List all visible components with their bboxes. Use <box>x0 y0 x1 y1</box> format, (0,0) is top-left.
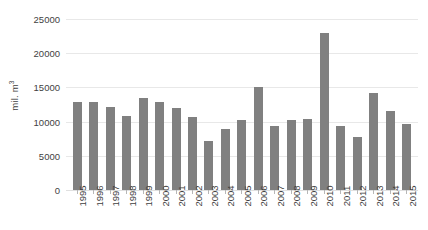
bar-slot <box>69 19 85 190</box>
bar-slot <box>300 19 316 190</box>
bar[interactable] <box>386 111 395 190</box>
bar[interactable] <box>106 107 115 190</box>
y-axis-title-superscript: 3 <box>7 80 14 84</box>
y-axis-tick-label: 25000 <box>34 14 60 25</box>
y-axis-tick-label: 0 <box>55 185 60 196</box>
x-axis-label-slot: 2008 <box>283 194 299 230</box>
bar[interactable] <box>89 102 98 190</box>
x-axis-label-slot: 2001 <box>168 194 184 230</box>
x-axis-label-slot: 1998 <box>118 194 134 230</box>
y-axis-tick-label: 15000 <box>34 82 60 93</box>
bar-slot <box>217 19 233 190</box>
bar[interactable] <box>353 137 362 190</box>
x-axis-label-slot: 1996 <box>85 194 101 230</box>
x-axis-label-slot: 2015 <box>398 194 414 230</box>
bar-slot <box>135 19 151 190</box>
x-axis-label-slot: 2007 <box>267 194 283 230</box>
y-axis-tick-label: 5000 <box>39 150 60 161</box>
bar[interactable] <box>139 98 148 190</box>
bar[interactable] <box>204 141 213 190</box>
bar[interactable] <box>188 117 197 190</box>
bar[interactable] <box>320 33 329 190</box>
bar[interactable] <box>402 124 411 190</box>
x-axis-label-slot: 1997 <box>102 194 118 230</box>
x-axis-label-slot: 2012 <box>349 194 365 230</box>
bar[interactable] <box>221 129 230 190</box>
y-axis-tick-label: 20000 <box>34 48 60 59</box>
bar[interactable] <box>122 116 131 190</box>
bar-slot <box>283 19 299 190</box>
x-axis-label-slot: 2011 <box>333 194 349 230</box>
y-axis-title-text: mil. m <box>9 84 20 111</box>
bar[interactable] <box>287 120 296 190</box>
y-axis-tick-label: 10000 <box>34 116 60 127</box>
x-axis-label-slot: 2009 <box>300 194 316 230</box>
bar-slot <box>168 19 184 190</box>
x-axis-tick-label: 2015 <box>407 185 418 206</box>
bar-slot <box>85 19 101 190</box>
x-axis-label-slot: 1999 <box>135 194 151 230</box>
x-axis-label-slot: 2013 <box>365 194 381 230</box>
bar-slot <box>316 19 332 190</box>
bar-chart: mil. m3 0500010000150002000025000 199519… <box>0 0 428 230</box>
bar-slot <box>333 19 349 190</box>
bar-slot <box>201 19 217 190</box>
bar[interactable] <box>303 119 312 190</box>
bar-slot <box>151 19 167 190</box>
x-axis-label-slot: 2003 <box>201 194 217 230</box>
x-axis-label-slot: 2006 <box>250 194 266 230</box>
bar[interactable] <box>73 102 82 190</box>
bar[interactable] <box>270 126 279 190</box>
bar-slot <box>398 19 414 190</box>
bar-slot <box>118 19 134 190</box>
bar-slot <box>234 19 250 190</box>
x-axis-label-slot: 2000 <box>151 194 167 230</box>
bar[interactable] <box>369 93 378 190</box>
x-axis-label-slot: 2014 <box>382 194 398 230</box>
bar[interactable] <box>155 102 164 190</box>
bar-series <box>66 19 418 190</box>
x-axis-label-slot: 2005 <box>234 194 250 230</box>
bar-slot <box>382 19 398 190</box>
bar-slot <box>365 19 381 190</box>
bar-slot <box>349 19 365 190</box>
y-axis-tick-labels: 0500010000150002000025000 <box>24 0 64 230</box>
bar-slot <box>102 19 118 190</box>
x-axis-tick-labels: 1995199619971998199920002001200220032004… <box>66 194 418 230</box>
bar-slot <box>250 19 266 190</box>
x-axis-label-slot: 2004 <box>217 194 233 230</box>
bar-slot <box>267 19 283 190</box>
plot-area <box>66 19 418 190</box>
bar-slot <box>184 19 200 190</box>
bar[interactable] <box>237 120 246 190</box>
bar[interactable] <box>172 108 181 190</box>
x-axis-label-slot: 2010 <box>316 194 332 230</box>
y-axis-title: mil. m3 <box>2 0 26 190</box>
bar[interactable] <box>254 87 263 190</box>
bar[interactable] <box>336 126 345 190</box>
x-axis-label-slot: 1995 <box>69 194 85 230</box>
x-axis-label-slot: 2002 <box>184 194 200 230</box>
